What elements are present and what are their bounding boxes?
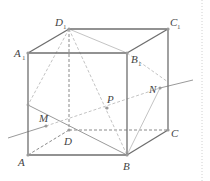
point-B xyxy=(125,153,128,156)
label-B1-sub: 1 xyxy=(138,60,142,68)
line-D1-B xyxy=(69,29,127,155)
point-N xyxy=(158,86,161,89)
label-P: P xyxy=(106,93,114,105)
label-A: A xyxy=(17,156,25,168)
point-A xyxy=(26,153,29,156)
label-C1-sub: 1 xyxy=(177,23,181,31)
point-C xyxy=(166,128,169,131)
cube-figure: A B C D A 1 B 1 C 1 D 1 M P N xyxy=(0,0,210,181)
label-A1: A xyxy=(13,47,21,59)
point-E xyxy=(27,104,30,107)
line-MN-outer-right xyxy=(160,80,193,88)
label-D: D xyxy=(63,135,72,147)
label-N: N xyxy=(148,83,157,95)
label-D1-sub: 1 xyxy=(63,23,67,31)
point-M xyxy=(44,124,47,127)
label-A1-sub: 1 xyxy=(22,54,26,62)
edge-A1-D1 xyxy=(28,29,69,53)
label-B: B xyxy=(123,160,130,172)
edge-A-D xyxy=(28,130,69,155)
label-B1: B xyxy=(131,53,138,65)
line-MN-inner xyxy=(46,88,160,126)
label-M: M xyxy=(38,112,49,124)
line-D1-B1 xyxy=(69,29,127,53)
label-D1: D xyxy=(54,16,63,28)
line-MN-outer-left xyxy=(8,126,46,138)
point-A1 xyxy=(26,51,29,54)
point-D1 xyxy=(67,27,70,30)
point-D xyxy=(67,128,70,131)
point-B1 xyxy=(125,51,128,54)
edge-B1-C1 xyxy=(127,29,168,53)
label-C: C xyxy=(171,127,179,139)
point-P xyxy=(105,106,108,109)
